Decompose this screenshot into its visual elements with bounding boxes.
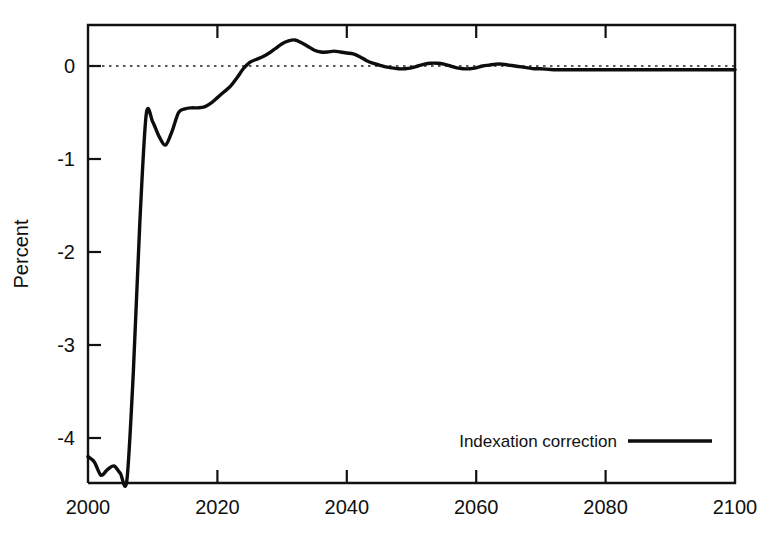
y-tick-label: -2 xyxy=(57,241,75,263)
x-tick-label: 2040 xyxy=(325,496,370,518)
plot-frame xyxy=(88,25,735,483)
legend-label-indexation-correction: Indexation correction xyxy=(459,432,617,451)
legend: Indexation correction xyxy=(459,432,712,451)
y-tick-label: 0 xyxy=(64,55,75,77)
series-line-indexation-correction xyxy=(88,40,735,486)
y-axis-title-group: Percent xyxy=(10,219,32,288)
y-tick-label: -4 xyxy=(57,427,75,449)
x-tick-label: 2020 xyxy=(195,496,240,518)
chart-container: 0-1-2-3-4 200020202040206020802100 Perce… xyxy=(0,0,773,536)
x-axis-ticks: 200020202040206020802100 xyxy=(66,25,758,518)
y-tick-label: -3 xyxy=(57,334,75,356)
y-axis-ticks: 0-1-2-3-4 xyxy=(57,55,101,449)
indexation-correction-line-chart: 0-1-2-3-4 200020202040206020802100 Perce… xyxy=(0,0,773,536)
x-tick-label: 2060 xyxy=(454,496,499,518)
x-tick-label: 2080 xyxy=(583,496,628,518)
y-tick-label: -1 xyxy=(57,148,75,170)
x-tick-label: 2000 xyxy=(66,496,111,518)
y-axis-title: Percent xyxy=(10,219,32,288)
axis-frame xyxy=(88,25,735,483)
x-tick-label: 2100 xyxy=(713,496,758,518)
